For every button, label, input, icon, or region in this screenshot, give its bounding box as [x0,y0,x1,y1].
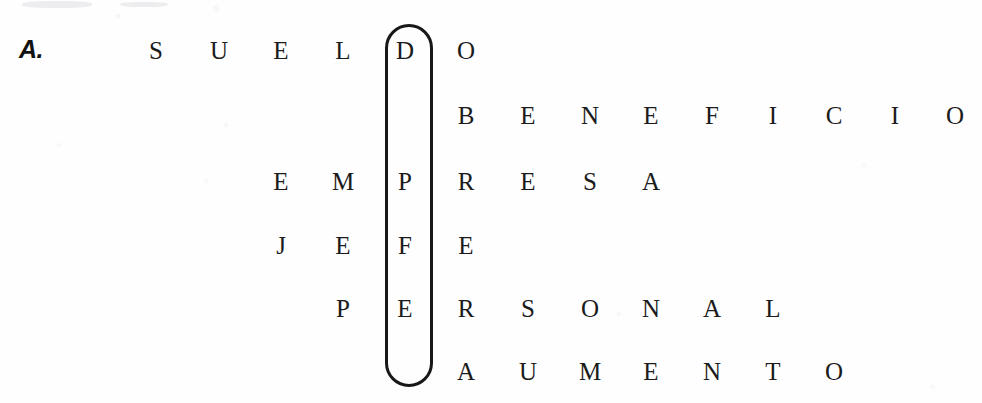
letter-cell: E [266,38,296,63]
letter-cell: N [575,103,605,128]
letter-cell: L [758,296,788,321]
letter-cell: M [328,169,358,194]
worksheet-page: A. SUELDOBENEFICIOSEMPRESAJEFEPERSONALAU… [0,0,982,403]
letter-cell: E [266,169,296,194]
letter-cell: O [451,38,481,63]
letter-cell: O [940,103,970,128]
scan-smudge [120,2,168,7]
letter-cell: A [451,359,481,384]
letter-cell: B [451,103,481,128]
letter-cell: I [758,103,788,128]
letter-cell: P [328,296,358,321]
letter-cell: E [636,103,666,128]
letter-cell: E [328,233,358,258]
letter-cell: E [513,169,543,194]
letter-cell: A [636,169,666,194]
letter-cell: D [390,38,420,63]
letter-cell: L [328,38,358,63]
letter-cell: N [697,359,727,384]
letter-cell: E [390,296,420,321]
letter-cell: E [636,359,666,384]
letter-cell: S [513,296,543,321]
letter-cell: P [390,169,420,194]
letter-cell: S [575,169,605,194]
letter-cell: U [513,359,543,384]
letter-cell: E [513,103,543,128]
letter-cell: J [266,233,296,258]
letter-cell: E [451,233,481,258]
letter-cell: S [141,38,171,63]
letter-cell: F [697,103,727,128]
letter-cell: R [451,296,481,321]
letter-cell: F [390,233,420,258]
letter-cell: U [204,38,234,63]
letter-cell: O [819,359,849,384]
scan-smudge [22,1,92,8]
key-word-highlight-capsule [385,24,433,387]
letter-cell: C [819,103,849,128]
letter-cell: A [697,296,727,321]
letter-cell: O [575,296,605,321]
letter-cell: M [575,359,605,384]
letter-cell: N [636,296,666,321]
letter-cell: T [758,359,788,384]
letter-cell: I [880,103,910,128]
exercise-item-label: A. [19,37,43,62]
letter-cell: R [451,169,481,194]
